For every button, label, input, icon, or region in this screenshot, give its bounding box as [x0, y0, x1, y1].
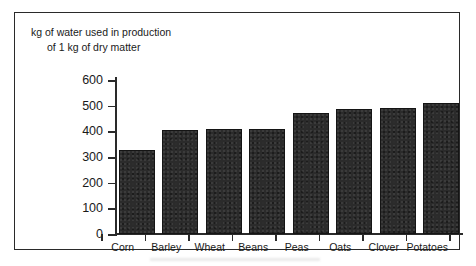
y-axis-tick-label: 100: [82, 201, 103, 215]
x-axis-category-label: Beans: [238, 241, 268, 253]
bar: [206, 129, 242, 234]
y-axis-tick-label: 600: [82, 73, 103, 87]
chart-title: kg of water used in production of 1 kg o…: [31, 25, 171, 55]
y-axis-tick: [108, 234, 115, 236]
chart-frame: kg of water used in production of 1 kg o…: [14, 12, 460, 250]
chart-title-line-1: kg of water used in production: [31, 25, 171, 40]
y-axis-tick: [108, 183, 115, 185]
y-axis-tick-label: 500: [82, 99, 103, 113]
x-axis-tick: [188, 234, 190, 241]
y-axis-tick: [108, 80, 115, 82]
x-axis-tick: [362, 234, 364, 241]
y-axis-tick: [108, 106, 115, 108]
y-axis-tick-label: 300: [82, 150, 103, 164]
x-axis-category-label: Clover: [369, 241, 399, 253]
x-axis-tick: [145, 234, 147, 241]
x-axis-category-label: Potatoes: [407, 241, 448, 253]
x-axis-category-label: Oats: [329, 241, 351, 253]
x-axis-category-label: Peas: [285, 241, 309, 253]
x-axis-tick: [449, 234, 451, 241]
y-axis-tick-label: 200: [82, 176, 103, 190]
x-axis-category-label: Wheat: [195, 241, 225, 253]
y-axis-tick: [108, 157, 115, 159]
x-axis-category-label: Corn: [111, 241, 134, 253]
bar: [162, 130, 198, 234]
bar: [119, 150, 155, 234]
y-axis-tick-labels: 0100200300400500600: [15, 80, 115, 234]
bar: [249, 129, 285, 234]
x-axis-category-label: Barley: [151, 241, 181, 253]
y-axis-tick: [108, 208, 115, 210]
x-axis-tick: [101, 234, 103, 241]
bar: [336, 109, 372, 234]
plot-area: [115, 80, 463, 234]
y-axis-tick: [108, 131, 115, 133]
scan-artifact: [150, 258, 320, 261]
chart-title-line-2: of 1 kg of dry matter: [31, 40, 171, 55]
x-axis-tick: [232, 234, 234, 241]
bar: [293, 113, 329, 234]
y-axis-tick-label: 400: [82, 124, 103, 138]
bar: [380, 108, 416, 234]
figure-canvas: kg of water used in production of 1 kg o…: [0, 0, 476, 266]
x-axis-tick: [275, 234, 277, 241]
x-axis-tick: [406, 234, 408, 241]
bar: [423, 103, 459, 234]
x-axis-tick: [319, 234, 321, 241]
